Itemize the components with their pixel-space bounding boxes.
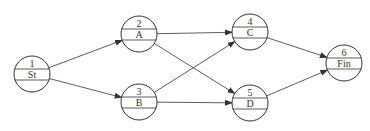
edge-2-to-5 [154, 44, 234, 94]
node-number: 6 [342, 47, 347, 58]
node-label: C [247, 27, 254, 38]
node-number: 4 [248, 16, 253, 27]
node-number: 2 [137, 18, 142, 29]
node-6: 6Fin [326, 45, 362, 81]
node-label: B [136, 97, 143, 108]
node-label: A [135, 29, 143, 40]
edge-2-to-4 [157, 32, 232, 33]
node-3: 3B [121, 84, 157, 120]
diagram-canvas: 1St2A3B4C5D6Fin [0, 0, 370, 131]
node-label: St [28, 69, 37, 80]
node-1: 1St [14, 56, 50, 92]
network-diagram: 1St2A3B4C5D6Fin [0, 0, 370, 131]
node-label: D [246, 98, 253, 109]
edge-3-to-5 [157, 102, 232, 103]
edge-5-to-6 [267, 70, 328, 96]
node-number: 3 [137, 86, 142, 97]
edge-4-to-6 [267, 38, 327, 58]
node-number: 1 [30, 58, 35, 69]
node-number: 5 [248, 87, 253, 98]
node-5: 5D [232, 85, 268, 121]
node-label: Fin [337, 58, 350, 69]
edge-1-to-3 [49, 79, 121, 98]
node-4: 4C [232, 14, 268, 50]
edge-1-to-2 [49, 40, 122, 67]
node-2: 2A [121, 16, 157, 52]
edge-3-to-4 [154, 42, 235, 93]
